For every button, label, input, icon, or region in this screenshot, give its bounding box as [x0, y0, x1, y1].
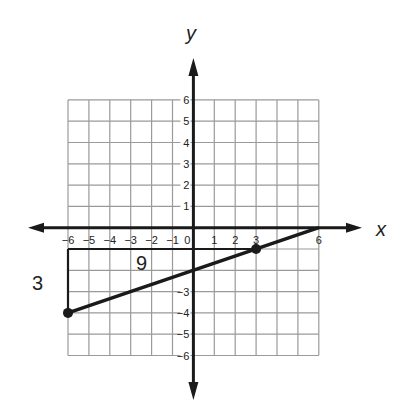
y-tick-label: 2: [183, 179, 189, 191]
y-tick-label: −4: [177, 307, 190, 319]
x-tick-label: 3: [253, 234, 259, 246]
arrow-down-icon: [188, 382, 198, 400]
y-tick-label: 4: [183, 137, 189, 149]
x-tick-label: 6: [316, 234, 322, 246]
x-tick-label: −1: [166, 234, 179, 246]
x-tick-label: −2: [145, 234, 158, 246]
y-tick-label: 6: [183, 94, 189, 106]
y-tick-label: 1: [183, 200, 189, 212]
x-tick-label: −5: [83, 234, 96, 246]
x-tick-label: 0: [184, 234, 190, 246]
arrow-up-icon: [188, 58, 198, 76]
rise-label: 3: [32, 272, 43, 294]
point-dot: [63, 308, 73, 318]
x-axis-label: x: [375, 218, 387, 240]
x-tick-label: 1: [211, 234, 217, 246]
run-label: 9: [136, 252, 147, 274]
y-tick-label: −3: [177, 286, 190, 298]
y-axis-label: y: [184, 22, 197, 44]
graphed-line: [63, 228, 319, 318]
arrow-right-icon: [346, 223, 362, 233]
arrow-left-icon: [28, 223, 44, 233]
x-tick-label: 2: [232, 234, 238, 246]
point-dot: [251, 244, 261, 254]
coordinate-plane: −6−5−4−3−2−101236654321−3−4−5−6 x y 9 3: [0, 0, 404, 408]
x-tick-label: −6: [62, 234, 75, 246]
x-tick-label: −4: [104, 234, 117, 246]
x-tick-label: −3: [124, 234, 137, 246]
y-tick-label: 3: [183, 158, 189, 170]
y-tick-label: 5: [183, 115, 189, 127]
y-tick-label: −6: [177, 350, 190, 362]
y-tick-label: −5: [177, 328, 190, 340]
